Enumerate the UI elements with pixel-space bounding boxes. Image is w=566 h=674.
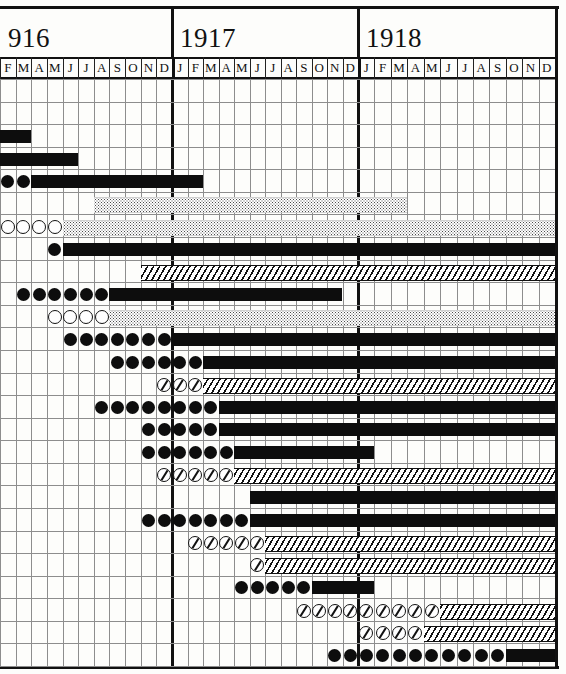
month-header-cell-916-M-3[interactable]: M — [47, 57, 63, 77]
marker-filled-row-15-col-13[interactable] — [204, 423, 217, 436]
marker-filled-row-22-col-17[interactable] — [266, 581, 279, 594]
marker-filled-row-16-col-10[interactable] — [158, 446, 171, 459]
marker-filled-row-19-col-12[interactable] — [189, 514, 202, 527]
month-header-cell-916-J-4[interactable]: J — [63, 57, 79, 77]
month-header-cell-916-A-2[interactable]: A — [31, 57, 47, 77]
marker-filled-row-16-col-14[interactable] — [220, 446, 233, 459]
month-header-cell-1918-A-26[interactable]: A — [407, 57, 423, 77]
marker-open-row-6-col-0[interactable] — [1, 220, 15, 234]
marker-hatched-row-20-col-16[interactable] — [250, 536, 264, 550]
marker-filled-row-12-col-12[interactable] — [189, 356, 202, 369]
marker-filled-row-25-col-28[interactable] — [442, 649, 455, 662]
month-header-cell-1918-N-33[interactable]: N — [522, 57, 538, 77]
marker-filled-row-4-col-1[interactable] — [17, 175, 30, 188]
month-header-cell-1918-F-24[interactable]: F — [374, 57, 390, 77]
month-header-cell-1918-O-32[interactable]: O — [506, 57, 522, 77]
bar-row-17-hatch[interactable] — [234, 468, 555, 484]
month-header-cell-916-F-0[interactable]: F — [0, 57, 16, 77]
marker-hatched-row-21-col-16[interactable] — [250, 558, 264, 572]
month-header-cell-916-O-8[interactable]: O — [125, 57, 141, 77]
marker-filled-row-25-col-30[interactable] — [475, 649, 488, 662]
bar-row-19-solid[interactable] — [250, 514, 556, 527]
marker-hatched-row-24-col-26[interactable] — [408, 626, 422, 640]
bar-row-22-solid[interactable] — [312, 581, 375, 594]
marker-filled-row-14-col-7[interactable] — [111, 401, 124, 414]
marker-filled-row-12-col-11[interactable] — [173, 356, 186, 369]
bar-row-10-stipple[interactable] — [109, 310, 555, 326]
marker-hatched-row-23-col-21[interactable] — [328, 604, 342, 618]
marker-hatched-row-13-col-10[interactable] — [157, 378, 171, 392]
marker-open-row-10-col-6[interactable] — [95, 310, 109, 324]
month-header-cell-916-A-6[interactable]: A — [94, 57, 110, 77]
month-header-cell-1917-J-17[interactable]: J — [265, 57, 281, 77]
month-header-cell-1918-M-27[interactable]: M — [424, 57, 440, 77]
marker-filled-row-22-col-15[interactable] — [235, 581, 248, 594]
bar-row-2-solid[interactable] — [0, 130, 31, 143]
bar-row-20-hatch[interactable] — [265, 536, 555, 552]
bar-row-12-solid[interactable] — [203, 356, 555, 369]
marker-hatched-row-23-col-26[interactable] — [408, 604, 422, 618]
marker-hatched-row-13-col-12[interactable] — [188, 378, 202, 392]
bar-row-5-stipple[interactable] — [94, 197, 407, 213]
marker-filled-row-15-col-12[interactable] — [189, 423, 202, 436]
month-header-cell-1918-J-28[interactable]: J — [440, 57, 456, 77]
marker-filled-row-9-col-6[interactable] — [95, 288, 108, 301]
bar-row-4-solid[interactable] — [31, 175, 203, 188]
bar-row-9-solid[interactable] — [109, 288, 342, 301]
marker-open-row-6-col-3[interactable] — [48, 220, 62, 234]
marker-filled-row-9-col-3[interactable] — [48, 288, 61, 301]
marker-filled-row-11-col-5[interactable] — [80, 333, 93, 346]
month-header-cell-916-J-5[interactable]: J — [78, 57, 94, 77]
marker-hatched-row-23-col-25[interactable] — [392, 604, 406, 618]
marker-filled-row-11-col-9[interactable] — [142, 333, 155, 346]
bar-row-14-solid[interactable] — [219, 401, 556, 414]
marker-filled-row-14-col-6[interactable] — [95, 401, 108, 414]
marker-hatched-row-20-col-15[interactable] — [235, 536, 249, 550]
marker-hatched-row-23-col-19[interactable] — [297, 604, 311, 618]
month-header-cell-1918-A-30[interactable]: A — [473, 57, 489, 77]
month-header-cell-1917-N-21[interactable]: N — [327, 57, 343, 77]
month-header-cell-916-S-7[interactable]: S — [109, 57, 125, 77]
marker-filled-row-14-col-13[interactable] — [204, 401, 217, 414]
month-header-cell-1917-J-16[interactable]: J — [250, 57, 266, 77]
bar-row-23-hatch[interactable] — [440, 604, 555, 620]
marker-filled-row-19-col-15[interactable] — [235, 514, 248, 527]
marker-hatched-row-20-col-14[interactable] — [219, 536, 233, 550]
marker-filled-row-15-col-9[interactable] — [142, 423, 155, 436]
month-header-cell-1917-S-19[interactable]: S — [296, 57, 312, 77]
marker-filled-row-25-col-27[interactable] — [425, 649, 438, 662]
marker-hatched-row-13-col-11[interactable] — [173, 378, 187, 392]
marker-open-row-10-col-4[interactable] — [63, 310, 77, 324]
marker-filled-row-25-col-31[interactable] — [491, 649, 504, 662]
marker-hatched-row-23-col-22[interactable] — [343, 604, 357, 618]
marker-filled-row-22-col-16[interactable] — [251, 581, 264, 594]
bar-row-6-stipple[interactable] — [63, 220, 555, 236]
bar-row-21-hatch[interactable] — [265, 558, 555, 574]
month-header-cell-1918-D-34[interactable]: D — [539, 57, 555, 77]
marker-filled-row-11-col-8[interactable] — [126, 333, 139, 346]
marker-filled-row-12-col-7[interactable] — [111, 356, 124, 369]
bar-row-7-solid[interactable] — [63, 243, 555, 256]
marker-filled-row-9-col-1[interactable] — [17, 288, 30, 301]
marker-hatched-row-20-col-13[interactable] — [204, 536, 218, 550]
marker-filled-row-14-col-10[interactable] — [158, 401, 171, 414]
month-header-cell-916-M-1[interactable]: M — [16, 57, 32, 77]
marker-filled-row-19-col-10[interactable] — [158, 514, 171, 527]
marker-filled-row-19-col-13[interactable] — [204, 514, 217, 527]
marker-filled-row-9-col-4[interactable] — [64, 288, 77, 301]
marker-filled-row-14-col-11[interactable] — [173, 401, 186, 414]
marker-filled-row-15-col-10[interactable] — [158, 423, 171, 436]
bar-row-24-hatch[interactable] — [424, 626, 555, 642]
marker-hatched-row-24-col-25[interactable] — [392, 626, 406, 640]
month-header-cell-1917-M-15[interactable]: M — [234, 57, 250, 77]
marker-filled-row-19-col-14[interactable] — [220, 514, 233, 527]
marker-open-row-6-col-1[interactable] — [16, 220, 30, 234]
marker-filled-row-9-col-2[interactable] — [33, 288, 46, 301]
marker-hatched-row-17-col-12[interactable] — [188, 468, 202, 482]
month-header-cell-916-N-9[interactable]: N — [141, 57, 157, 77]
marker-open-row-6-col-2[interactable] — [32, 220, 46, 234]
month-header-cell-1918-S-31[interactable]: S — [489, 57, 505, 77]
marker-filled-row-12-col-8[interactable] — [126, 356, 139, 369]
marker-filled-row-15-col-11[interactable] — [173, 423, 186, 436]
month-header-cell-1917-D-22[interactable]: D — [343, 57, 359, 77]
